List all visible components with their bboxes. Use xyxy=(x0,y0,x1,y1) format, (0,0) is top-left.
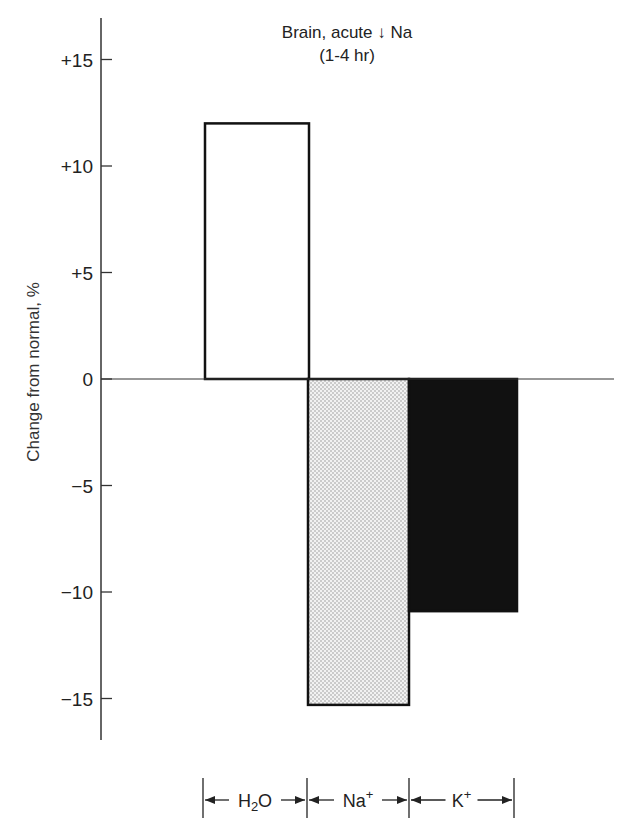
bar-chart: Brain, acute ↓ Na (1-4 hr) Change from n… xyxy=(0,0,635,838)
category-label: H2O xyxy=(238,791,272,814)
y-tick-label: +5 xyxy=(71,263,93,284)
category-label: K+ xyxy=(452,787,472,811)
y-tick-label: +10 xyxy=(61,156,93,177)
arrow-left-icon xyxy=(309,796,319,804)
bar-k-ion xyxy=(409,379,517,611)
category-brackets: H2ONa+K+ xyxy=(203,778,514,818)
bar-na-ion xyxy=(308,379,409,705)
bar-h2o xyxy=(205,123,309,379)
arrow-right-icon xyxy=(397,796,407,804)
y-tick-label: −10 xyxy=(61,582,93,603)
bars xyxy=(205,123,517,704)
chart-title: Brain, acute ↓ Na xyxy=(282,23,413,42)
arrow-left-icon xyxy=(205,796,215,804)
category-label: Na+ xyxy=(343,787,374,811)
y-tick-label: +15 xyxy=(61,50,93,71)
y-tick-label: 0 xyxy=(82,369,93,390)
y-tick-label: −5 xyxy=(71,476,93,497)
arrow-right-icon xyxy=(295,796,305,804)
y-axis-label: Change from normal, % xyxy=(24,282,43,462)
chart-subtitle: (1-4 hr) xyxy=(319,46,375,65)
y-tick-label: −15 xyxy=(61,689,93,710)
arrow-left-icon xyxy=(411,796,421,804)
arrow-right-icon xyxy=(502,796,512,804)
